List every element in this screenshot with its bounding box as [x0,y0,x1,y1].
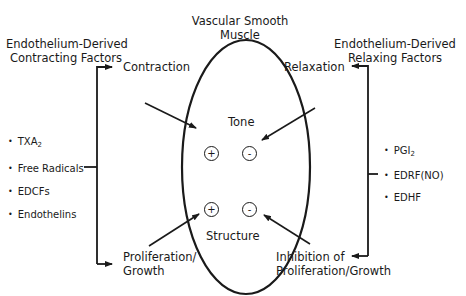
title: Vascular Smooth Muscle [190,14,290,42]
right-header-line1: Endothelium-Derived [330,37,460,51]
contraction-label: Contraction [123,60,190,74]
proliferation-label: Proliferation/ Growth [123,250,196,278]
contracting-factors-list: TXA2 Free Radicals EDCFs Endothelins [8,130,84,226]
title-line2: Muscle [190,28,290,42]
title-line1: Vascular Smooth [190,14,290,28]
right-header: Endothelium-Derived Relaxing Factors [330,37,460,65]
inhibition-arrow [264,215,310,244]
list-item: Free Radicals [8,157,84,180]
list-item: EDRF(NO) [384,165,444,187]
structure-plus-icon: + [204,202,219,217]
right-bracket [352,66,378,256]
structure-label: Structure [206,229,260,243]
proliferation-arrow [149,214,199,246]
list-item: PGI2 [384,140,444,165]
left-header-line2: Contracting Factors [6,51,126,65]
relaxation-label: Relaxation [284,60,345,74]
left-header-line1: Endothelium-Derived [6,37,126,51]
tone-label: Tone [228,115,254,129]
list-item: Endothelins [8,203,84,226]
tone-minus-icon: - [242,146,257,161]
right-header-line2: Relaxing Factors [330,51,460,65]
list-item: EDHF [384,187,444,209]
relaxing-factors-list: PGI2 EDRF(NO) EDHF [384,140,444,209]
structure-minus-icon: - [242,202,257,217]
left-header: Endothelium-Derived Contracting Factors [6,37,126,65]
list-item: EDCFs [8,180,84,203]
tone-plus-icon: + [204,146,219,161]
list-item: TXA2 [8,130,84,157]
left-bracket [84,67,112,264]
inhibition-label: Inhibition of Proliferation/Growth [276,250,391,278]
